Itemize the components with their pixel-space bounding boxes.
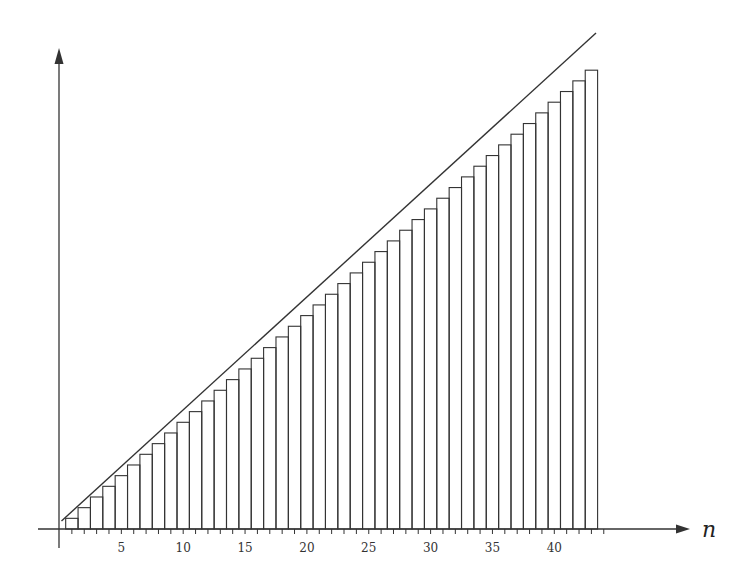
- bar: [189, 412, 201, 529]
- ticks-group: [72, 529, 604, 534]
- bar: [350, 273, 362, 529]
- bar: [523, 124, 535, 529]
- bar: [313, 305, 325, 529]
- bar: [177, 422, 189, 529]
- x-axis-arrow-icon: [676, 525, 690, 534]
- bar: [251, 358, 263, 529]
- bar: [449, 188, 461, 529]
- bar: [363, 262, 375, 529]
- bar: [486, 156, 498, 529]
- bar: [115, 476, 127, 529]
- bar: [66, 518, 78, 529]
- bar: [511, 134, 523, 529]
- bar: [462, 177, 474, 529]
- bar: [78, 508, 90, 529]
- bar: [152, 444, 164, 529]
- bar: [338, 284, 350, 529]
- bar: [375, 252, 387, 529]
- bars-group: [66, 70, 598, 529]
- bar: [214, 390, 226, 529]
- x-tick-label: 40: [547, 541, 562, 555]
- x-tick-label: 35: [485, 541, 500, 555]
- bounding-line: [62, 33, 597, 521]
- x-tick-label: 5: [118, 541, 126, 555]
- bar: [573, 81, 585, 529]
- staircase-chart: n 510152025303540: [0, 0, 746, 582]
- bar: [90, 497, 102, 529]
- tick-labels-group: 510152025303540: [118, 541, 562, 555]
- bar: [264, 348, 276, 529]
- bar: [560, 92, 572, 529]
- y-axis-arrow-icon: [55, 48, 64, 64]
- x-tick-label: 10: [176, 541, 191, 555]
- bar: [140, 454, 152, 529]
- bar: [325, 294, 337, 529]
- x-tick-label: 20: [299, 541, 314, 555]
- bar: [499, 145, 511, 529]
- bar: [474, 166, 486, 529]
- bar: [437, 198, 449, 529]
- bar: [276, 337, 288, 529]
- x-tick-label: 25: [361, 541, 376, 555]
- bar: [400, 230, 412, 529]
- bar: [165, 433, 177, 529]
- bar: [239, 369, 251, 529]
- x-tick-label: 15: [237, 541, 252, 555]
- x-tick-label: 30: [423, 541, 438, 555]
- bar: [585, 70, 597, 529]
- bar: [226, 380, 238, 529]
- bar: [536, 113, 548, 529]
- bar: [412, 220, 424, 529]
- x-axis-label: n: [702, 517, 716, 542]
- bar: [548, 102, 560, 529]
- bar: [128, 465, 140, 529]
- bar: [424, 209, 436, 529]
- bar: [301, 316, 313, 529]
- bar: [288, 326, 300, 529]
- bar: [387, 241, 399, 529]
- bar: [202, 401, 214, 529]
- bar: [103, 486, 115, 529]
